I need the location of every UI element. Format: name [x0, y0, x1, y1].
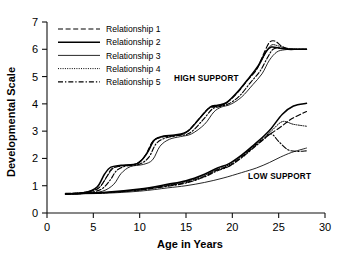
developmental-scale-line-chart: 01234567 051015202530 HIGH SUPPORTLOW SU…: [0, 0, 347, 268]
y-tick-label-2: 2: [32, 152, 38, 164]
y-tick-label-6: 6: [32, 43, 38, 55]
chart-container: 01234567 051015202530 HIGH SUPPORTLOW SU…: [0, 0, 347, 268]
x-axis-title: Age in Years: [157, 238, 223, 250]
annotation-high-support: HIGH SUPPORT: [174, 74, 239, 83]
legend-label-2: Relationship 2: [106, 37, 161, 47]
x-tick-label-30: 30: [319, 221, 331, 233]
legend-label-4: Relationship 4: [106, 64, 161, 74]
x-tick-label-25: 25: [273, 221, 285, 233]
y-axis-ticks: 01234567: [32, 16, 47, 219]
legend-label-5: Relationship 5: [106, 77, 161, 87]
chart-annotations: HIGH SUPPORTLOW SUPPORT: [174, 74, 311, 181]
y-tick-label-7: 7: [32, 16, 38, 28]
legend-label-1: Relationship 1: [106, 24, 161, 34]
annotation-low-support: LOW SUPPORT: [248, 172, 311, 181]
x-axis-ticks: 051015202530: [44, 213, 331, 233]
x-tick-label-0: 0: [44, 221, 50, 233]
y-tick-label-5: 5: [32, 71, 38, 83]
chart-legend: Relationship 1Relationship 2Relationship…: [58, 24, 161, 87]
legend-label-3: Relationship 3: [106, 51, 161, 61]
y-tick-label-0: 0: [32, 207, 38, 219]
curve-high-support-relationship-1: [66, 41, 307, 194]
x-tick-label-10: 10: [134, 221, 146, 233]
y-tick-label-1: 1: [32, 180, 38, 192]
x-tick-label-15: 15: [180, 221, 192, 233]
x-tick-label-5: 5: [90, 221, 96, 233]
y-tick-label-3: 3: [32, 125, 38, 137]
x-tick-label-20: 20: [226, 221, 238, 233]
y-axis-title: Developmental Scale: [5, 67, 17, 177]
y-tick-label-4: 4: [32, 98, 38, 110]
